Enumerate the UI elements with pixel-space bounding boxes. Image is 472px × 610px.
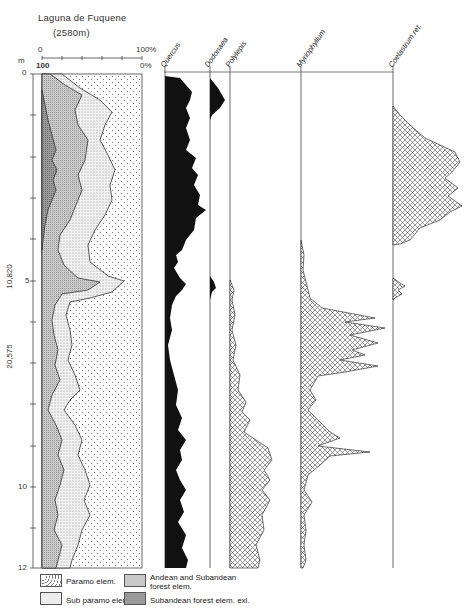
legend-label-paramo: Páramo elem. xyxy=(66,577,116,586)
top-scale-axis xyxy=(42,56,142,60)
legend-label-andean: Andean and Subandean forest elem. xyxy=(150,573,250,591)
legend-label-subandean: Subandean forest elem. exl. xyxy=(150,596,250,605)
quercus-curve xyxy=(165,66,206,568)
polylepis-curve xyxy=(230,66,272,568)
pollen-diagram-graphics xyxy=(0,0,472,610)
dodonaea-curve xyxy=(210,66,225,568)
myriophyllum-curve xyxy=(301,66,385,568)
legend-swatch-paramo xyxy=(40,574,62,587)
depth-axis xyxy=(30,74,42,568)
coelastrum-curve xyxy=(393,66,462,568)
legend-label-subparamo: Sub páramo elem. xyxy=(66,596,131,605)
legend-swatch-subandean xyxy=(124,592,146,605)
legend-swatch-subparamo xyxy=(40,592,62,605)
legend-swatch-andean xyxy=(124,574,146,587)
summary-diagram xyxy=(42,74,142,568)
